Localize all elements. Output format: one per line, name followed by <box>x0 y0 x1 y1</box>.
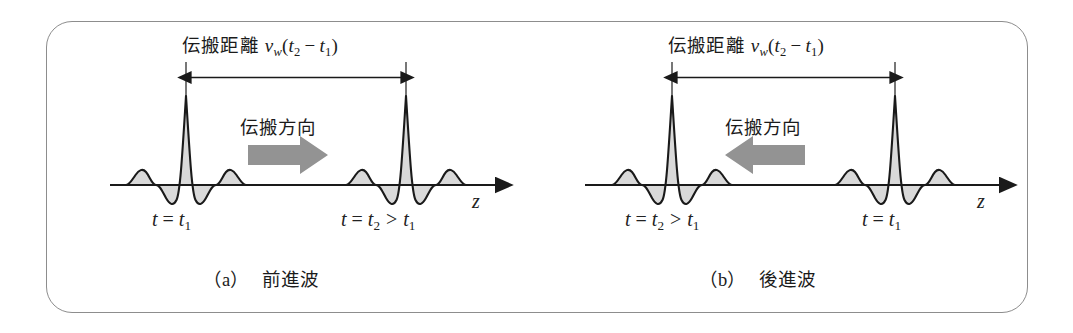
figure-root: 伝搬距離vw(t2−t1) 伝搬方向 t=t1 t=t2>t1 z （a）前進波 <box>0 0 1073 333</box>
dimension-label: 伝搬距離vw(t2−t1) <box>668 31 824 60</box>
left-time-equals: = <box>636 208 647 230</box>
dimension-close-paren: ) <box>817 35 824 56</box>
dimension-label-jp: 伝搬距離 <box>182 35 259 56</box>
right-time-equals: = <box>873 208 884 230</box>
right-time-t: t <box>862 208 868 230</box>
right-time-subscript2: 1 <box>409 218 416 233</box>
panel-a-caption-paren: （a） <box>203 270 249 290</box>
dimension-label-jp: 伝搬距離 <box>668 35 745 56</box>
left-time-greater: > <box>670 208 681 230</box>
dimension-label: 伝搬距離vw(t2−t1) <box>182 31 338 60</box>
z-axis-label: z <box>977 190 985 213</box>
left-time-subscript: 2 <box>657 218 664 233</box>
dimension-t2-subscript: 2 <box>780 45 786 59</box>
panel-b-caption: （b）後進波 <box>699 265 816 291</box>
propagation-direction-label: 伝搬方向 <box>725 113 801 139</box>
right-wave-time-label: t=t1 <box>862 208 901 234</box>
left-wave-time-label: t=t1 <box>152 208 191 234</box>
right-time-equals: = <box>352 208 363 230</box>
left-time-t: t <box>625 208 631 230</box>
right-time-subscript: 1 <box>894 218 901 233</box>
z-axis-label: z <box>472 190 480 213</box>
panel-a-caption-text: 前進波 <box>262 269 319 290</box>
wave-packet-left <box>126 96 246 204</box>
propagation-direction-label: 伝搬方向 <box>240 113 316 139</box>
panel-a-caption: （a）前進波 <box>203 265 319 291</box>
dimension-minus: − <box>791 35 802 56</box>
propagation-arrow-left-icon <box>725 136 805 174</box>
right-time-t: t <box>341 208 347 230</box>
left-time-t: t <box>152 208 158 230</box>
propagation-arrow-right-icon <box>248 136 328 174</box>
wave-packet-right <box>346 96 466 204</box>
left-time-subscript: 1 <box>184 218 191 233</box>
dimension-close-paren: ) <box>331 35 338 56</box>
dimension-velocity-subscript: w <box>759 45 768 59</box>
wave-packet-right <box>835 96 955 204</box>
dimension-minus: − <box>305 35 316 56</box>
dimension-t2-subscript: 2 <box>294 45 300 59</box>
panel-b-caption-text: 後進波 <box>759 269 816 290</box>
panel-backward-wave: 伝搬距離vw(t2−t1) 伝搬方向 t=t2>t1 t=t1 z （b）後進波 <box>537 0 1073 333</box>
right-time-subscript: 2 <box>373 218 380 233</box>
left-wave-time-label: t=t2>t1 <box>625 208 699 234</box>
left-time-equals: = <box>163 208 174 230</box>
panel-b-caption-paren: （b） <box>699 270 746 290</box>
right-wave-time-label: t=t2>t1 <box>341 208 415 234</box>
panel-forward-wave: 伝搬距離vw(t2−t1) 伝搬方向 t=t1 t=t2>t1 z （a）前進波 <box>0 0 536 333</box>
dimension-velocity-subscript: w <box>273 45 282 59</box>
left-time-subscript2: 1 <box>693 218 700 233</box>
right-time-greater: > <box>386 208 397 230</box>
wave-packet-left <box>612 96 732 204</box>
